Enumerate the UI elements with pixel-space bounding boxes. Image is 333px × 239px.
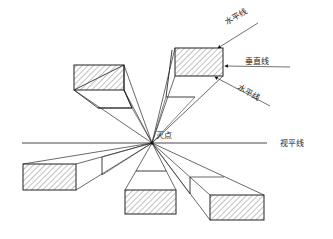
leader-vertical — [225, 66, 290, 67]
leader-top-horizontal — [218, 23, 258, 48]
label-vertical-line: 垂直线 — [245, 58, 269, 66]
lower-left-box — [23, 143, 152, 190]
label-horizon-line: 视平线 — [280, 140, 304, 148]
diagram-canvas — [0, 0, 333, 239]
upper-right-box — [152, 48, 223, 143]
converging-rays — [102, 97, 195, 194]
upper-left-box — [74, 65, 152, 143]
perspective-diagram: 水平线 垂直线 水平线 灭点 视平线 — [0, 0, 333, 239]
lower-middle-box — [125, 143, 176, 214]
label-vanishing-point: 灭点 — [156, 132, 172, 140]
vanishing-point-dot — [150, 141, 153, 144]
